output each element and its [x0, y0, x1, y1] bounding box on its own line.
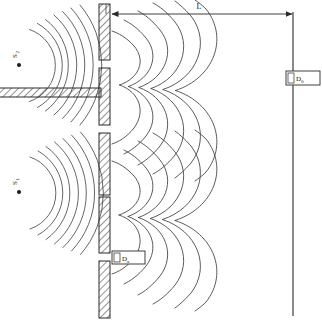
barrier-segment-lower-mid — [99, 197, 110, 253]
source-label-top: S 2 — [11, 51, 20, 59]
source-point-top — [17, 63, 21, 67]
source-label-bottom: S 1 — [11, 178, 20, 186]
incident-wavefronts-bottom — [30, 132, 104, 255]
dimension-L-label: L — [197, 2, 202, 11]
source-top-symbol: S — [11, 54, 19, 58]
wave-interference-figure: S 2 S 1 L D 0 D a — [0, 0, 322, 323]
barrier-segment-center — [99, 133, 110, 195]
source-bottom-symbol: S — [11, 181, 19, 185]
barrier-segment-top — [99, 4, 110, 60]
barrier-segment-upper-mid — [99, 68, 110, 125]
screen-callout-inner-tab — [288, 73, 294, 83]
slit-callout-inner-tab — [114, 253, 120, 262]
source-points — [17, 63, 21, 194]
source-top-subscript: 2 — [15, 51, 20, 54]
figure-canvas: S 2 S 1 L D 0 D a — [0, 0, 322, 323]
slit-callout-Da[interactable]: D a — [112, 251, 145, 264]
source-bottom-subscript: 1 — [15, 178, 20, 181]
slit-barrier — [99, 4, 110, 318]
incident-wavefronts-top — [30, 5, 102, 125]
transmitted-wavefronts — [112, 0, 217, 181]
source-point-bottom — [17, 190, 21, 194]
barrier-segment-bottom — [99, 261, 110, 318]
source-mount-bar — [0, 88, 101, 97]
transmitted-wavefronts-lower — [112, 130, 217, 311]
screen-callout-D0[interactable]: D 0 — [286, 71, 320, 85]
